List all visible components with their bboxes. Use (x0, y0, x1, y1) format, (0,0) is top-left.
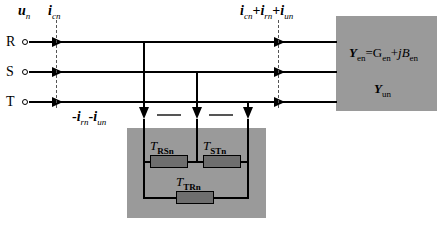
voltage-subscript: n (26, 11, 31, 21)
branch-wire-left-down (143, 161, 145, 199)
admittance-jb-symbol: jB (398, 45, 410, 60)
phase-wire-s (29, 71, 337, 73)
transformer-sub-rsn: RSn (157, 146, 174, 156)
admittance-y-symbol: Y (349, 45, 357, 60)
down-arrow-t (243, 107, 253, 119)
admittance-equation: Yen=Gen+jBen (349, 46, 418, 63)
admittance-plus: + (391, 45, 398, 60)
current-arrow-t-in (52, 97, 63, 107)
current-label-icn: icn (48, 4, 60, 21)
admittance-un-label: Yun (374, 82, 391, 99)
terminal-circle-t (22, 99, 28, 105)
sum-term-3-sub: un (284, 11, 293, 21)
down-arrow-r (139, 107, 149, 119)
transformer-label-trn: TTRn (176, 174, 201, 192)
dash-segment-2 (209, 114, 233, 116)
circuit-diagram: R S T TRSn TSTn TTRn (0, 0, 443, 227)
drop-wire-from-s (196, 71, 198, 109)
current-c-subscript: cn (52, 11, 61, 21)
transformer-element-rsn (150, 155, 188, 168)
voltage-label-un: un (18, 4, 30, 21)
phase-wire-t (29, 101, 337, 103)
current-arrow-s-in (52, 67, 63, 77)
current-arrow-r-in (52, 37, 63, 47)
admittance-g-symbol: G (373, 45, 382, 60)
voltage-symbol: u (18, 3, 26, 18)
transformer-sub-stn: STn (210, 146, 226, 156)
transformer-element-stn (203, 155, 241, 168)
terminal-circle-s (22, 69, 28, 75)
transformer-label-stn: TSTn (203, 138, 226, 156)
current-arrow-s-out (274, 67, 285, 77)
terminal-label-s: S (6, 65, 14, 79)
transformer-label-rsn: TRSn (150, 138, 174, 156)
inner-wire-t (247, 119, 249, 199)
neg-term-1-sub: rn (81, 117, 89, 127)
transformer-element-trn (176, 191, 214, 204)
dashed-reference-line-right (278, 20, 279, 108)
admittance-jb-sub: en (410, 53, 419, 63)
current-arrow-t-out (274, 97, 285, 107)
admittance-un-symbol: Y (374, 81, 382, 96)
dash-segment-1 (157, 114, 181, 116)
inner-wire-s (196, 119, 198, 162)
phase-wire-r (29, 41, 337, 43)
inner-wire-r (143, 119, 145, 162)
terminal-label-r: R (6, 35, 15, 49)
neg-term-2-sub: un (97, 117, 106, 127)
terminal-label-t: T (6, 95, 15, 109)
admittance-un-sub: un (382, 89, 391, 99)
down-arrow-s (192, 107, 202, 119)
terminal-circle-r (22, 39, 28, 45)
current-negative-label: -irn-iun (72, 110, 106, 127)
admittance-equals: = (365, 45, 372, 60)
admittance-g-sub: en (382, 53, 391, 63)
drop-wire-from-r (143, 41, 145, 109)
dashed-reference-line-left (56, 20, 57, 108)
current-arrow-r-out (274, 37, 285, 47)
transformer-sub-trn: TRn (183, 182, 201, 192)
current-sum-label: icn+irn+iun (240, 4, 293, 21)
